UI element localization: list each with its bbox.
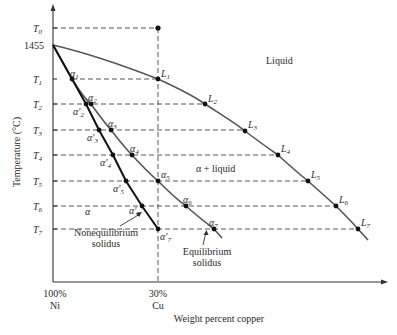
tick-30cu-name: Cu: [152, 300, 164, 311]
y-axis-arrow-icon: [51, 4, 56, 11]
tick-t2: T2: [33, 99, 43, 112]
nonequilibrium-annotation: Nonequilibrium solidus: [74, 212, 142, 249]
tick-t4: T4: [33, 150, 43, 163]
alpha5-point: [156, 179, 161, 184]
tick-1455: 1455: [24, 40, 44, 51]
tick-100ni-name: Ni: [50, 300, 60, 311]
x-axis-title: Weight percent copper: [174, 313, 265, 324]
t0-point: [155, 25, 160, 30]
svg-text:α′7: α′7: [160, 231, 171, 244]
region-liquid: Liquid: [266, 55, 293, 66]
svg-text:L4: L4: [280, 143, 291, 156]
l3-point: [243, 129, 248, 134]
tick-30cu-pct: 30%: [149, 288, 167, 299]
region-alpha-liquid: α + liquid: [196, 163, 235, 174]
alpha3-prime-point: [97, 128, 102, 133]
svg-text:solidus: solidus: [193, 257, 221, 268]
svg-text:L7: L7: [360, 217, 371, 230]
x-axis-arrow-icon: [381, 280, 388, 285]
y-axis-title: Temperature (°C): [11, 117, 23, 187]
phase-diagram: T0 1455 T1 T2 T3 T4 T5 T6 T7 Temperature…: [0, 0, 397, 335]
tick-100ni-pct: 100%: [43, 288, 66, 299]
svg-text:α7: α7: [209, 217, 218, 230]
svg-text:solidus: solidus: [92, 238, 120, 249]
svg-text:α′5: α′5: [113, 183, 124, 196]
svg-text:L2: L2: [207, 93, 218, 106]
svg-text:L6: L6: [338, 194, 349, 207]
alpha5-prime-point: [124, 179, 129, 184]
svg-text:L3: L3: [247, 119, 258, 132]
equilibrium-annotation: Equilibrium solidus: [183, 230, 232, 268]
svg-text:Equilibrium: Equilibrium: [183, 246, 232, 257]
alpha4-prime-point: [111, 153, 116, 158]
tick-t3: T3: [33, 125, 43, 138]
l7-point: [356, 227, 361, 232]
svg-text:α′6: α′6: [129, 205, 140, 218]
tick-t7: T7: [33, 224, 43, 237]
svg-text:α5: α5: [161, 169, 170, 182]
x-tick-labels: 100% Ni 30% Cu: [43, 288, 167, 311]
tick-t0: T0: [33, 23, 43, 36]
y-tick-labels: T0 1455 T1 T2 T3 T4 T5 T6 T7: [24, 23, 44, 237]
l5-point: [306, 179, 311, 184]
liquidus-curve: [53, 45, 368, 240]
svg-text:α′4: α′4: [100, 157, 111, 170]
svg-text:L1: L1: [160, 68, 170, 81]
l1-point: [156, 77, 161, 82]
svg-text:α′3: α′3: [87, 132, 98, 145]
tick-t6: T6: [33, 201, 43, 214]
svg-text:Nonequilibrium: Nonequilibrium: [74, 227, 138, 238]
tick-t5: T5: [33, 176, 43, 189]
l4-point: [276, 153, 281, 158]
svg-text:α′2: α′2: [73, 106, 84, 119]
l6-point: [334, 204, 339, 209]
alpha6-prime-point: [140, 204, 145, 209]
svg-text:L5: L5: [310, 169, 321, 182]
tick-t1: T1: [33, 74, 42, 87]
region-alpha: α: [85, 206, 91, 217]
l2-point: [203, 102, 208, 107]
